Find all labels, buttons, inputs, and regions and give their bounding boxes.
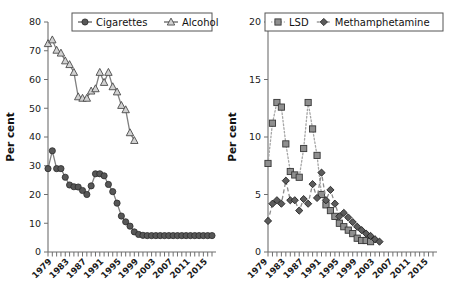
y-tick-label-40: 40	[29, 131, 41, 142]
data-point-cigarettes-1	[49, 148, 55, 154]
y-axis-title: Per cent	[226, 112, 238, 162]
y-tick-label-70: 70	[29, 45, 41, 56]
data-point-alcohol-20	[131, 137, 138, 144]
right-chart-svg: 05101520Per cent197919831987199119951999…	[228, 0, 449, 300]
data-point-alcohol-15	[109, 83, 116, 90]
data-point-lsd-1	[269, 120, 275, 126]
data-point-cigarettes-38	[209, 233, 215, 239]
data-point-alcohol-13	[100, 78, 107, 85]
legend-label-cigarettes: Cigarettes	[96, 17, 147, 28]
y-tick-label-0: 0	[255, 246, 261, 257]
data-point-methamphetamine-6	[291, 197, 298, 204]
data-point-alcohol-17	[118, 101, 125, 108]
data-point-alcohol-12	[96, 68, 103, 75]
legend-marker-lsd-icon	[275, 19, 281, 25]
data-point-cigarettes-17	[118, 213, 124, 219]
legend-marker-cigarettes-icon	[82, 19, 88, 25]
data-point-cigarettes-14	[105, 181, 111, 187]
data-point-alcohol-4	[62, 57, 69, 64]
y-tick-label-60: 60	[29, 74, 41, 85]
data-point-lsd-0	[265, 160, 271, 166]
data-point-methamphetamine-7	[296, 207, 303, 214]
legend-svg-left: CigarettesAlcohol	[72, 13, 218, 31]
data-point-methamphetamine-15	[331, 200, 338, 207]
y-tick-label-10: 10	[29, 218, 41, 229]
y-tick-label-20: 20	[249, 16, 261, 27]
data-point-alcohol-6	[70, 68, 77, 75]
data-point-lsd-11	[314, 152, 320, 158]
data-point-cigarettes-9	[84, 191, 90, 197]
legend-svg-right: LSDMethamphetamine	[265, 13, 443, 31]
y-tick-label-20: 20	[29, 189, 41, 200]
data-point-cigarettes-15	[110, 189, 116, 195]
legend-label-alcohol: Alcohol	[182, 17, 218, 28]
data-point-cigarettes-4	[62, 174, 68, 180]
chart-panel-left: 01020304050607080Per cent197919831987199…	[0, 0, 228, 300]
x-tick-label-2015: 2015	[406, 256, 430, 280]
data-point-cigarettes-0	[45, 166, 51, 172]
data-point-lsd-3	[278, 104, 284, 110]
legend-label-methamphetamine: Methamphetamine	[335, 17, 430, 28]
data-point-alcohol-1	[49, 36, 56, 43]
data-point-lsd-14	[327, 208, 333, 214]
y-tick-label-5: 5	[255, 189, 261, 200]
data-point-methamphetamine-0	[264, 217, 271, 224]
data-point-cigarettes-10	[88, 183, 94, 189]
data-point-methamphetamine-4	[282, 177, 289, 184]
y-tick-label-0: 0	[35, 246, 41, 257]
y-tick-label-50: 50	[29, 103, 41, 114]
figure-root: 01020304050607080Per cent197919831987199…	[0, 0, 449, 300]
data-point-cigarettes-3	[58, 166, 64, 172]
y-tick-label-15: 15	[249, 74, 261, 85]
y-tick-label-30: 30	[29, 160, 41, 171]
data-point-lsd-9	[305, 99, 311, 105]
x-tick-label-2015: 2015	[185, 256, 209, 280]
data-point-alcohol-19	[126, 129, 133, 136]
data-point-alcohol-14	[105, 68, 112, 75]
data-point-lsd-8	[301, 145, 307, 151]
data-point-lsd-4	[283, 141, 289, 147]
y-tick-label-80: 80	[29, 16, 41, 27]
y-axis-title: Per cent	[4, 112, 16, 162]
data-point-methamphetamine-10	[309, 181, 316, 188]
y-tick-label-10: 10	[249, 131, 261, 142]
data-point-alcohol-11	[92, 85, 99, 92]
left-chart-svg: 01020304050607080Per cent197919831987199…	[0, 0, 228, 300]
data-point-lsd-10	[309, 126, 315, 132]
data-point-cigarettes-16	[114, 200, 120, 206]
legend-label-lsd: LSD	[289, 17, 309, 28]
chart-panel-right: 05101520Per cent197919831987199119951999…	[228, 0, 449, 300]
data-point-cigarettes-19	[127, 223, 133, 229]
data-point-cigarettes-13	[101, 173, 107, 179]
data-point-lsd-7	[296, 174, 302, 180]
data-point-methamphetamine-14	[327, 186, 334, 193]
